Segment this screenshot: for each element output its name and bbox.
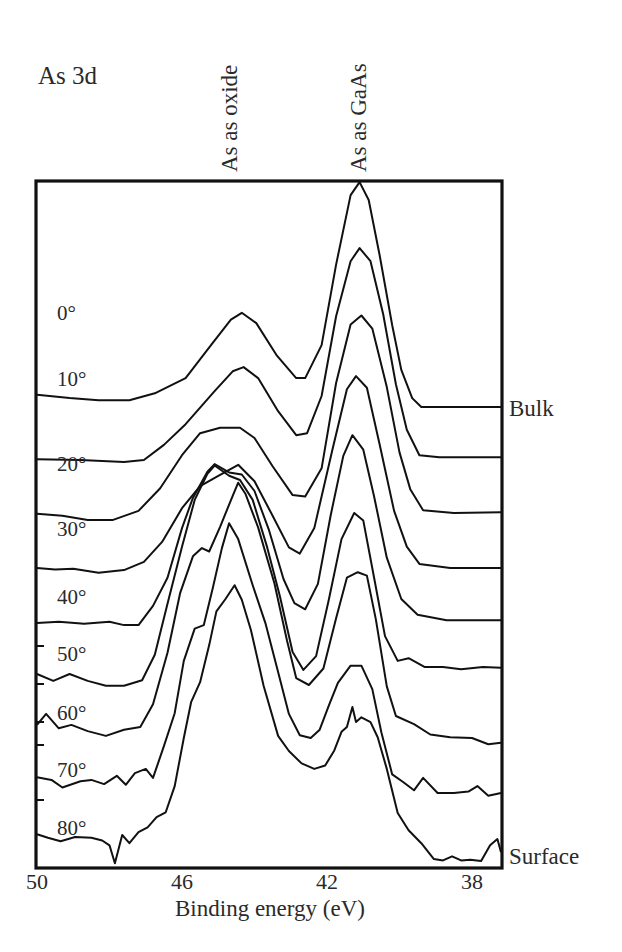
side-label-surface: Surface — [509, 844, 579, 869]
spectrum-line-80deg — [37, 585, 501, 863]
x-tick-label: 46 — [171, 869, 193, 894]
peak-label-as-gaas: As as GaAs — [346, 63, 371, 172]
spectrum-line-0deg — [37, 182, 501, 407]
series-label-50deg: 50° — [57, 642, 86, 666]
spectrum-line-20deg — [37, 316, 501, 520]
spectrum-line-10deg — [37, 248, 501, 462]
spectrum-line-50deg — [37, 466, 501, 686]
side-label-bulk: Bulk — [509, 396, 554, 421]
peak-annotations: As as oxide As as GaAs — [217, 63, 371, 172]
plot-frame — [36, 181, 502, 868]
series-label-0deg: 0° — [57, 301, 76, 325]
series-label-40deg: 40° — [57, 585, 86, 609]
series-label-10deg: 10° — [57, 367, 86, 391]
x-tick-label: 38 — [461, 869, 483, 894]
x-tick-label: 42 — [316, 869, 338, 894]
spectra-curves — [37, 182, 501, 863]
series-label-20deg: 20° — [57, 452, 86, 476]
series-label-70deg: 70° — [57, 758, 86, 782]
x-tick-label: 50 — [26, 869, 48, 894]
x-axis-label: Binding energy (eV) — [175, 896, 365, 921]
chart-title: As 3d — [38, 62, 98, 89]
spectrum-line-30deg — [37, 376, 501, 573]
xps-angle-resolved-chart: As 3d As as oxide As as GaAs 0°10°20°30°… — [0, 0, 622, 952]
series-label-30deg: 30° — [57, 517, 86, 541]
x-axis: 50464238 — [26, 869, 483, 894]
peak-label-as-oxide: As as oxide — [217, 65, 242, 172]
spectrum-line-40deg — [37, 435, 501, 625]
series-label-60deg: 60° — [57, 701, 86, 725]
series-label-80deg: 80° — [57, 816, 86, 840]
